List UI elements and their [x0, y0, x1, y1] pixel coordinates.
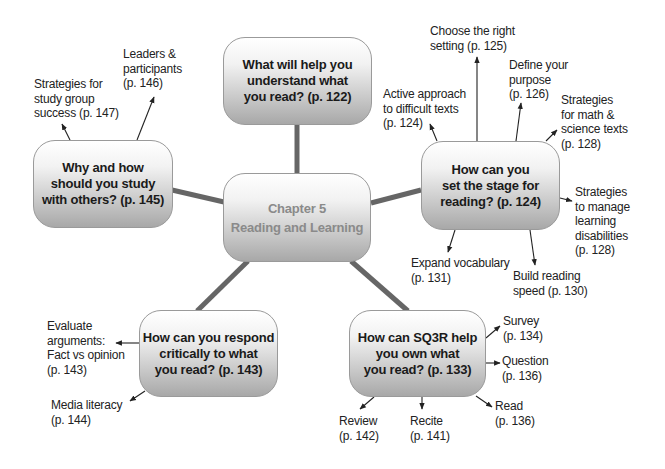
subtopic-expand-vocabulary: Expand vocabulary (p. 131) [411, 256, 510, 285]
central-topic-box: Chapter 5 Reading and Learning [223, 173, 371, 262]
central-topic-title: Chapter 5 Reading and Learning [231, 199, 364, 237]
arrow-review [360, 397, 374, 409]
topic-box-study-with-others: Why and how should you study with others… [33, 140, 173, 228]
connector-left [172, 190, 224, 202]
subtopic-review: Review (p. 142) [339, 414, 379, 443]
arrow-vocabulary [448, 230, 455, 252]
subtopic-leaders-participants: Leaders & participants (p. 146) [123, 47, 182, 91]
subtopic-study-group-success: Strategies for study group success (p. 1… [34, 77, 119, 121]
topic-box-set-the-stage: How can you set the stage for reading? (… [421, 141, 560, 230]
topic-box-understand: What will help you understand what you r… [223, 37, 372, 125]
subtopic-choose-setting: Choose the right setting (p. 125) [430, 24, 515, 53]
concept-map: Chapter 5 Reading and Learning What will… [0, 0, 665, 469]
arrow-leaders [137, 97, 154, 140]
subtopic-question: Question (p. 136) [502, 354, 548, 383]
topic-label: Why and how should you study with others… [42, 160, 164, 208]
subtopic-media-literacy: Media literacy (p. 144) [51, 398, 122, 427]
subtopic-evaluate-arguments: Evaluate arguments: Fact vs opinion (p. … [47, 319, 125, 377]
subtopic-reading-speed: Build reading speed (p. 130) [513, 269, 588, 298]
connector-right [371, 190, 421, 203]
topic-label: How can you respond critically to what y… [143, 330, 274, 378]
arrow-survey [486, 326, 500, 338]
arrow-read [476, 396, 492, 407]
topic-label: How can SQ3R help you own what you read?… [358, 330, 477, 378]
topic-label: What will help you understand what you r… [243, 57, 353, 105]
subtopic-define-purpose: Define your purpose (p. 126) [509, 58, 568, 102]
topic-label: How can you set the stage for reading? (… [440, 162, 541, 210]
subtopic-recite: Recite (p. 141) [410, 414, 450, 443]
subtopic-learning-disabilities: Strategies to manage learning disabiliti… [575, 185, 630, 258]
arrow-learning-disabilities [560, 198, 572, 201]
arrow-reading-speed [530, 230, 535, 265]
arrow-math-science [546, 130, 557, 141]
subtopic-read: Read (p. 136) [495, 399, 535, 428]
arrow-study-group [62, 124, 70, 140]
connector-bottom-right [351, 261, 408, 311]
arrow-define-purpose [516, 103, 521, 141]
arrow-media-literacy [130, 391, 145, 401]
subtopic-survey: Survey (p. 134) [503, 314, 543, 343]
subtopic-active-approach: Active approach to difficult texts (p. 1… [383, 87, 466, 131]
connector-bottom-left [197, 261, 248, 311]
subtopic-math-science: Strategies for math & science texts (p. … [561, 93, 628, 151]
topic-box-sq3r: How can SQ3R help you own what you read?… [349, 310, 486, 397]
topic-box-respond-critically: How can you respond critically to what y… [139, 310, 278, 397]
